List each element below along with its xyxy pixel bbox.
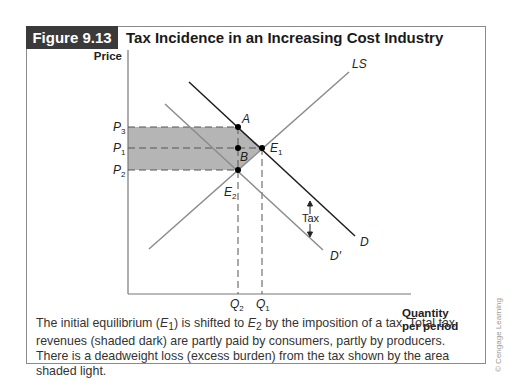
label-e1: E1 [270,141,283,157]
point-e2 [235,167,241,173]
label-b: B [240,150,248,164]
tick-q1: Q1 [256,297,270,313]
label-a: A [241,112,250,126]
figure-caption: The initial equilibrium (E1) is shifted … [36,316,476,379]
tick-q2: Q2 [230,297,244,313]
label-d: D [360,235,369,249]
label-tax: Tax [302,212,320,224]
label-d-prime: D′ [330,249,342,263]
point-e1 [259,145,265,151]
tick-p1: P1 [113,141,126,157]
tick-p3: P3 [113,120,126,136]
label-e2: E2 [224,185,237,201]
copyright-credit: © Cengage Learning [494,298,503,372]
tick-p2: P2 [113,163,126,179]
label-ls: LS [352,57,367,71]
y-axis-label: Price [94,50,122,62]
point-a [235,124,241,130]
